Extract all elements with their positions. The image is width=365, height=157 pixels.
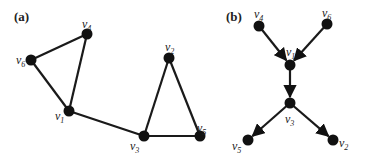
node-label-v2: v2: [165, 40, 174, 56]
node-v3: [285, 98, 296, 109]
node-v5: [243, 135, 254, 146]
node-label-v6: v6: [322, 6, 331, 22]
node-v2: [328, 135, 339, 146]
node-label-v4: v4: [254, 7, 263, 23]
node-label-v1: v1: [286, 45, 295, 61]
edge-v6-v1: [294, 24, 327, 61]
edge-v3-v2: [290, 103, 328, 136]
edge-v4-v1: [259, 26, 286, 60]
node-v3: [139, 131, 150, 142]
graph-a: v4v6v1v3v2v5: [16, 17, 206, 155]
node-label-v2: v2: [339, 136, 348, 152]
node-label-v5: v5: [232, 139, 241, 155]
node-label-v1: v1: [55, 109, 64, 125]
edge-v6-v1: [31, 60, 69, 111]
edge-v3-v2: [144, 58, 169, 136]
node-v1: [285, 60, 296, 71]
node-label-v5: v5: [197, 121, 206, 137]
edge-v2-v5: [169, 58, 200, 136]
edge-v4-v1: [69, 34, 87, 111]
node-label-v6: v6: [16, 53, 25, 69]
node-label-v4: v4: [82, 17, 91, 33]
node-v1: [64, 106, 75, 117]
graph-figure: (a) (b) v4v6v1v3v2v5 v4v6v1v3v5v2: [0, 0, 365, 157]
panel-label-a: (a): [14, 9, 29, 24]
edge-v1-v3: [69, 111, 144, 136]
graph-b: v4v6v1v3v5v2: [232, 6, 348, 155]
panel-label-b: (b): [226, 9, 242, 24]
node-v6: [26, 55, 37, 66]
node-label-v3: v3: [285, 112, 294, 128]
edge-v6-v4: [31, 34, 87, 60]
node-label-v3: v3: [130, 139, 139, 155]
